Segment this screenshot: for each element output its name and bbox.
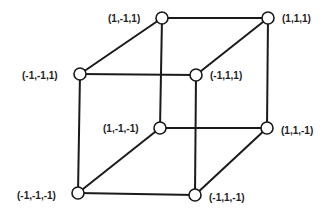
cube-edge (78, 128, 160, 193)
cube-edge (196, 18, 268, 75)
vertex-circle-icon (262, 12, 274, 24)
cube-edge (78, 193, 195, 195)
cube-edge (195, 128, 267, 195)
node-label-1-1-1: (1,1,1) (282, 13, 311, 24)
cube-edge (78, 74, 80, 193)
cube-edge (160, 18, 162, 128)
vertex-circle-icon (74, 68, 86, 80)
cube-edge (80, 18, 162, 74)
node-label-1-m1-m1: (1,-1,-1) (103, 123, 139, 134)
cube-diagram: (1,-1,1) (1,1,1) (-1,-1,1) (-1,1,1) (1,-… (0, 0, 330, 217)
cube-edge (80, 74, 196, 75)
node-label-m1-m1-m1: (-1,-1,-1) (17, 190, 56, 201)
vertex-circle-icon (189, 189, 201, 201)
cube-edge (267, 18, 268, 128)
vertex-circle-icon (261, 122, 273, 134)
node-label-m1-1-1: (-1,1,1) (210, 70, 242, 81)
node-label-1-m1-1: (1,-1,1) (108, 13, 140, 24)
vertex-circle-icon (72, 187, 84, 199)
node-label-m1-1-m1: (-1,1,-1) (209, 192, 245, 203)
node-label-1-1-m1: (1,1,-1) (281, 125, 313, 136)
cube-edge (195, 75, 196, 195)
vertex-circle-icon (190, 69, 202, 81)
vertex-circle-icon (154, 122, 166, 134)
edges-layer (78, 18, 268, 195)
node-label-m1-m1-1: (-1,-1,1) (22, 70, 58, 81)
labels-layer: (1,-1,1) (1,1,1) (-1,-1,1) (-1,1,1) (1,-… (17, 13, 313, 203)
vertex-circle-icon (156, 12, 168, 24)
